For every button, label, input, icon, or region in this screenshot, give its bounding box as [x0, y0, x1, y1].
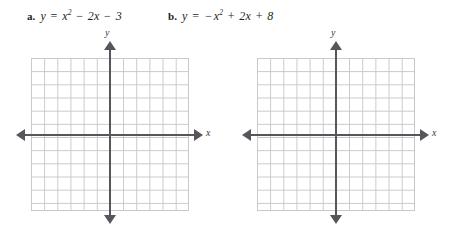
y-axis-a [109, 50, 111, 218]
x-axis-right-arrow-icon-a [194, 129, 203, 141]
x-axis-label-a: x [206, 128, 210, 138]
worksheet-page: a.y = x2 − 2x − 3 b.y = −x2 + 2x + 8 x y [0, 0, 452, 232]
y-axis-up-arrow-icon-b [330, 41, 342, 50]
y-axis-label-a: y [105, 28, 109, 38]
y-axis-up-arrow-icon-a [104, 41, 116, 50]
y-axis-b [335, 50, 337, 218]
x-axis-left-arrow-icon-a [16, 129, 25, 141]
x-axis-right-arrow-icon-b [420, 129, 429, 141]
y-axis-down-arrow-icon-b [330, 215, 342, 224]
coordinate-grid-b: x y [226, 0, 452, 232]
x-axis-left-arrow-icon-b [242, 129, 251, 141]
coordinate-grid-a: x y [0, 0, 226, 232]
y-axis-down-arrow-icon-a [104, 215, 116, 224]
y-axis-label-b: y [331, 28, 335, 38]
x-axis-label-b: x [432, 128, 436, 138]
